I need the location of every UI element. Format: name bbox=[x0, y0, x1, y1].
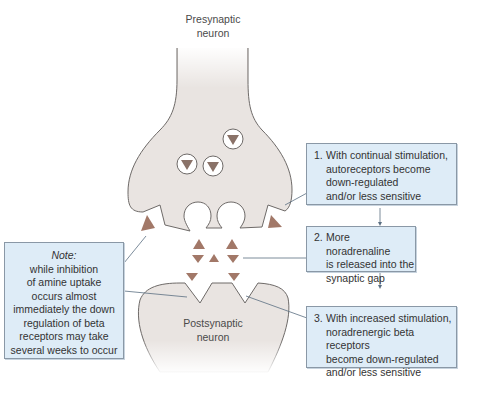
step-text-line: autoreceptors become bbox=[307, 163, 456, 177]
step-box-3: 3. With increased stimulation, noradrene… bbox=[306, 306, 457, 368]
presynaptic-label: Presynaptic neuron bbox=[172, 12, 254, 40]
note-line: regulation of beta bbox=[5, 317, 123, 331]
step-box-2: 2. More noradrenaline is released into t… bbox=[306, 226, 416, 272]
vesicle bbox=[203, 156, 223, 176]
postsynaptic-label-line: Postsynaptic bbox=[172, 316, 254, 330]
autoreceptor-transmitter-left bbox=[141, 215, 155, 231]
step-text-line: synaptic gap bbox=[307, 272, 415, 286]
step-text-line: and/or less sensitive bbox=[307, 190, 456, 204]
axon-fade bbox=[178, 46, 247, 88]
step-text-line: With continual stimulation, bbox=[307, 149, 456, 163]
arrow-head bbox=[378, 285, 382, 289]
transmitter bbox=[193, 239, 205, 249]
step-text-line: is released into the bbox=[307, 258, 415, 272]
postsynaptic-label: Postsynaptic neuron bbox=[172, 316, 254, 344]
postsynaptic-label-line: neuron bbox=[172, 330, 254, 344]
vesicle bbox=[177, 154, 197, 174]
bound-transmitter bbox=[228, 273, 240, 281]
connector-note-top bbox=[124, 236, 146, 263]
step-text-line: With increased stimulation, bbox=[307, 312, 456, 326]
autoreceptor-transmitter-right bbox=[268, 215, 282, 228]
transmitter bbox=[227, 255, 239, 263]
step-text-line: become down-regulated bbox=[307, 353, 456, 367]
step-text-line: and/or less sensitive bbox=[307, 366, 456, 380]
vesicle bbox=[223, 129, 243, 149]
dendrite-fade bbox=[138, 340, 290, 374]
transmitter bbox=[209, 254, 219, 262]
step-number: 2. bbox=[314, 231, 323, 245]
presynaptic-label-line: Presynaptic bbox=[172, 12, 254, 26]
note-line: several weeks to occur bbox=[5, 344, 123, 358]
figure-caption-clipped bbox=[0, 394, 479, 402]
note-line: immediately the down bbox=[5, 303, 123, 317]
bound-transmitter bbox=[186, 273, 198, 281]
note-box: Note: while inhibition of amine uptake o… bbox=[4, 242, 124, 359]
presynaptic-label-line: neuron bbox=[172, 26, 254, 40]
step-text-line: down-regulated bbox=[307, 176, 456, 190]
note-line: while inhibition bbox=[5, 263, 123, 277]
note-line: of amine uptake bbox=[5, 276, 123, 290]
note-line: occurs almost bbox=[5, 290, 123, 304]
step-text-line: More noradrenaline bbox=[307, 231, 415, 258]
note-line: receptors may take bbox=[5, 330, 123, 344]
step-number: 3. bbox=[314, 312, 323, 326]
step-number: 1. bbox=[314, 149, 323, 163]
transmitter bbox=[226, 239, 238, 249]
step-text-line: noradrenergic beta receptors bbox=[307, 326, 456, 353]
note-title: Note: bbox=[5, 249, 123, 263]
transmitter bbox=[192, 255, 204, 263]
step-box-1: 1. With continual stimulation, autorecep… bbox=[306, 143, 457, 205]
